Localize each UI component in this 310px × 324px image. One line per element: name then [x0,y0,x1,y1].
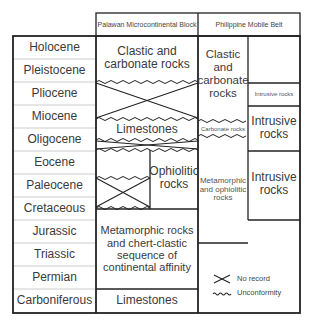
philippine-clastic-carbonate: Clastic and carbonate rocks [199,44,247,104]
period-cretaceous: Cretaceous [13,197,96,220]
period-holocene: Holocene [13,36,96,59]
philippine-carbonate: Carbonate rocks [198,123,248,135]
palawan-limestones-lower: Limestones [96,289,198,313]
period-triassic: Triassic [13,243,96,266]
palawan-clastic-carbonate: Clastic and carbonate rocks [100,38,194,78]
period-miocene: Miocene [13,105,96,128]
unconformity-pliocene-top [96,81,198,84]
philippine-intrusive-1: Intrusive rocks [252,108,296,148]
unconformity-legend-icon [213,293,231,295]
period-paleocene: Paleocene [13,174,96,197]
period-carboniferous: Carboniferous [13,289,96,313]
period-pliocene: Pliocene [13,82,96,105]
unconformity-oligocene-2 [96,149,198,152]
legend-no-record: No record [237,274,270,283]
period-oligocene: Oligocene [13,128,96,151]
unconformity-paleocene [96,177,150,180]
palawan-metamorphic: Metamorphic rocks and chert-clastic sequ… [98,211,196,287]
philippine-metamorphic-ophiolitic: Metamorphic and ophiolitic rocks [199,160,247,220]
no-record-legend-icon [214,275,230,283]
period-permian: Permian [13,266,96,289]
legend-unconformity: Unconformity [237,288,281,297]
philippine-intrusive-2: Intrusive rocks [252,164,296,204]
header-philippine: Philippine Mobile Belt [198,13,300,36]
legend-icons [213,275,231,295]
period-jurassic: Jurassic [13,220,96,243]
period-eocene: Eocene [13,151,96,174]
header-palawan: Palawan Microcontinental Block [96,13,198,36]
palawan-limestones-upper: Limestones [96,121,198,139]
philippine-intrusive-small: Intrusive rocks [248,83,300,106]
period-pleistocene: Pleistocene [13,59,96,82]
palawan-ophiolitic: Ophiolitic rocks [150,160,198,196]
